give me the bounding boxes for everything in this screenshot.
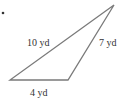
- side-label-right: 7 yd: [99, 37, 117, 48]
- bullet-dot: [2, 12, 5, 15]
- side-label-bottom: 4 yd: [30, 87, 48, 98]
- triangle-diagram: 10 yd 7 yd 4 yd: [0, 0, 125, 104]
- side-label-left: 10 yd: [27, 37, 50, 48]
